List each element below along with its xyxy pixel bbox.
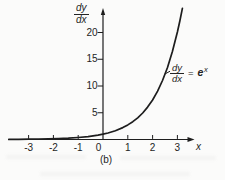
x-tick-label: 3 [175, 143, 181, 153]
x-tick-label: 2 [150, 143, 156, 153]
x-axis-arrow-icon [188, 137, 195, 142]
x-tick-label: 0 [96, 143, 102, 153]
e-base: e [198, 66, 204, 78]
x-tick-label: 1 [125, 143, 131, 153]
y-axis-label-numerator: dy [74, 3, 89, 15]
y-tick-label: 20 [78, 28, 98, 38]
derivative-exponential-figure: dy dx 5101520 -3-2-10123 dy dx = ex x (b… [0, 0, 225, 180]
x-tick-label: -3 [24, 143, 33, 153]
y-tick-label: 5 [78, 108, 98, 118]
annotation-numerator: dy [170, 63, 184, 74]
y-axis-ticks [98, 33, 104, 113]
annotation-rhs: ex [198, 68, 208, 79]
y-tick-label: 10 [78, 81, 98, 91]
x-tick-label: -1 [74, 143, 83, 153]
curve-equation-annotation: dy dx = ex [170, 60, 207, 86]
figure-caption: (b) [93, 155, 119, 165]
x-tick-label: -2 [49, 143, 58, 153]
y-axis-label-fraction: dy dx [74, 3, 89, 25]
x-axis-label: x [196, 142, 201, 152]
scan-smudge [120, 156, 216, 160]
y-axis-arrow-icon [101, 8, 105, 15]
scan-smudge [6, 155, 86, 159]
scan-smudge [40, 172, 190, 176]
plot-canvas [0, 0, 225, 180]
annotation-denominator: dx [172, 74, 182, 84]
y-axis-label-denominator: dx [76, 15, 87, 26]
y-tick-label: 15 [78, 54, 98, 64]
annotation-fraction: dy dx [170, 63, 184, 84]
x-exponent: x [204, 65, 208, 74]
equals-sign: = [187, 68, 195, 78]
